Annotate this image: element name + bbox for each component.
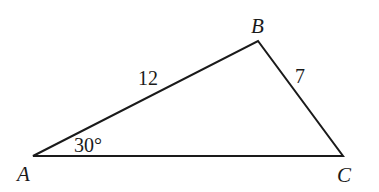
triangle-diagram: A B C 12 7 30° [0,0,379,192]
vertex-label-a: A [15,162,30,186]
side-label-bc: 7 [295,65,305,87]
vertex-label-c: C [337,163,352,187]
triangle-svg: A B C 12 7 30° [0,0,379,192]
side-label-ab: 12 [138,67,158,89]
vertex-label-b: B [251,14,264,38]
angle-label-a: 30° [74,134,102,156]
